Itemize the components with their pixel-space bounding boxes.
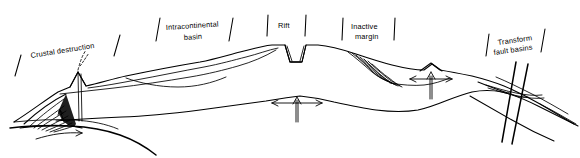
upper-sediment-horizon (88, 48, 278, 88)
label-inactive-margin-line2: margin (355, 32, 379, 41)
rift-graben-icon (285, 45, 306, 62)
surface-profile (14, 45, 574, 124)
curved-subduction-arrow-icon (36, 130, 82, 139)
crust-mantle-boundary (56, 91, 578, 127)
intracontinental-basin-lens (126, 77, 226, 87)
subducting-slab (10, 126, 156, 155)
sediment-wedge-icon (348, 52, 402, 87)
label-intracontinental-basin-line2: basin (184, 32, 203, 42)
geologic-cross-section-figure: Crustal destruction Intracontinental bas… (0, 0, 580, 158)
label-crustal-destruction: Crustal destruction (30, 41, 95, 60)
label-intracontinental-basin-line1: Intracontinental (166, 19, 220, 32)
right-lower-horizon (540, 104, 576, 124)
label-inactive-margin-line1: Inactive (351, 22, 378, 31)
eruption-plume-icon (78, 50, 89, 70)
label-rift: Rift (278, 21, 290, 30)
transform-fault-icon (470, 62, 568, 144)
upwelling-arrow-rift-icon (272, 97, 322, 122)
cross-section-drawing: Crustal destruction Intracontinental bas… (0, 0, 580, 158)
